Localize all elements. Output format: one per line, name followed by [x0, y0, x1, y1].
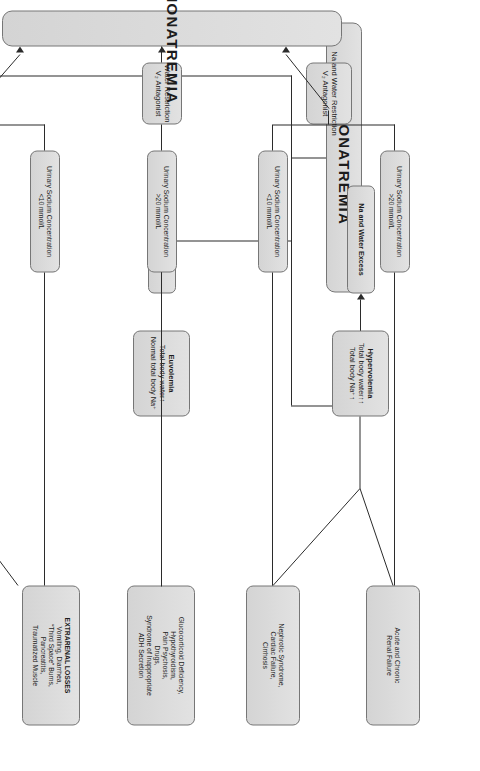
hypervolemic-nonrenal-item-2: Cirrhosis: [261, 642, 269, 669]
extrarenal-losses-item-3: Traumatized Muscle: [31, 625, 39, 686]
volume-state-hypervolemia: Hypervolemia Total body water↑↑ Total bo…: [332, 330, 389, 416]
hypervolemic-renal-item-1: Renal Failure: [385, 635, 393, 675]
connector-euvolemic-causes-to-lab: [161, 272, 162, 585]
connector-nawr-to-normonatremia: [280, 46, 340, 112]
euvolemic-cause-item-1: Hypothyroidism,: [169, 631, 177, 680]
euvolemic-cause-item-4: Syndrome of Inappropriate: [145, 615, 153, 695]
lab-urinary-sodium-gt20-hypervolemia-renalfailure: Urinary Sodium Concentration>20 mmol/L: [380, 150, 410, 272]
connector-hyperv-renal-to-lab: [394, 272, 395, 585]
lab-urinary-sodium-lt10-hypovolemia-extrarenal: Urinary Sodium Concentration<10 mmol/L: [30, 150, 60, 272]
causes-hypervolemic-renal-failure: Acute and Chronic Renal Failure: [366, 585, 420, 725]
causes-euvolemic: Glucocorticoid Deficiency, Hypothyroidis…: [127, 585, 195, 725]
connector-hypovolemia-split: [0, 414, 40, 594]
euvolemia-line2: Normal total body Na⁺: [148, 336, 157, 409]
extrarenal-losses-item-2: Pancreatitis,: [39, 636, 47, 673]
extrarenal-losses-item-0: Vomiting, Diarrhea,: [55, 626, 63, 684]
lab-lt10-b-line1: Urinary Sodium Concentration: [45, 165, 53, 256]
arrowhead-normonatremia-from-nawr: [282, 46, 290, 52]
stage-na-and-water-excess: Na and Water Excess: [347, 185, 375, 293]
euvolemic-cause-item-3: Drugs,: [153, 645, 161, 665]
connector-lab-lt10a-to-nawr: [272, 124, 273, 150]
euvolemic-cause-item-0: Glucocorticoid Deficiency,: [177, 616, 185, 694]
connector-saline-to-normonatremia: [0, 46, 80, 112]
causes-extrarenal-losses: EXTRARENAL LOSSES Vomiting, Diarrhea, “T…: [22, 585, 80, 725]
extrarenal-losses-header: EXTRARENAL LOSSES: [63, 617, 71, 693]
lab-lt10-a-line2: <10 mmol/L: [265, 193, 273, 229]
connector-saline-bus: [0, 124, 45, 125]
connector-nawr-bus: [273, 124, 395, 125]
lab-lt10-b-line2: <10 mmol/L: [37, 193, 45, 229]
connector-hypervolemia-split: [290, 414, 420, 594]
connector-hyperv-nonrenal-to-lab: [272, 272, 273, 585]
hypervolemic-nonrenal-item-1: Cardiac Failure,: [269, 631, 277, 679]
lab-urinary-sodium-lt10-hypervolemia-nonrenal: Urinary Sodium Concentration<10 mmol/L: [258, 150, 288, 272]
treatment-water-restriction-line2: V₂ Antagonist: [153, 70, 162, 116]
euvolemic-cause-item-5: ADH Secretion: [137, 633, 145, 678]
outcome-normonatremia: NORMONATREMIA: [2, 10, 342, 46]
lab-gt20-b-line2: >20 mmol/L: [154, 193, 162, 229]
connector-lab-gt20b-to-wr: [161, 124, 162, 150]
euvolemia-name: Euvolemia: [166, 354, 175, 392]
euvolemic-cause-item-2: Pain Psychosis,: [161, 631, 169, 679]
hypervolemic-renal-item-0: Acute and Chronic: [393, 627, 401, 683]
hypervolemia-line2: Total body Na⁺↑: [347, 347, 356, 400]
connector-title-trunk: [292, 157, 326, 158]
stage-na-and-water-excess-label: Na and Water Excess: [357, 203, 365, 275]
hypervolemia-line1: Total body water↑↑: [356, 342, 365, 403]
extrarenal-losses-item-1: “Third Space” Burns,: [47, 624, 55, 687]
lab-gt20-b-line1: Urinary Sodium Concentration: [162, 165, 170, 256]
connector-extrarenal-losses-to-lab: [44, 272, 45, 585]
arrowhead-normonatremia-from-wr: [158, 46, 166, 52]
lab-lt10-a-line1: Urinary Sodium Concentration: [273, 165, 281, 256]
lab-gt20-a-line1b: Urinary Sodium Concentration: [395, 165, 403, 256]
flowchart-canvas: HYPONATREMIA Na and Water Deficit Water …: [0, 0, 480, 771]
connector-lab-gt20a-to-nawr: [394, 124, 395, 150]
connector-lab-lt10b-to-saline: [44, 124, 45, 150]
arrowhead-naexcess: [357, 293, 365, 299]
hypervolemia-name: Hypervolemia: [365, 348, 374, 398]
lab-urinary-sodium-gt20-euvolemia: Urinary Sodium Concentration>20 mmol/L: [147, 150, 177, 272]
lab-gt20-a-line2b: >20 mmol/L: [387, 193, 395, 229]
hypervolemic-nonrenal-item-0: Nephrotic Syndrome,: [277, 623, 285, 687]
causes-hypervolemic-nonrenal: Nephrotic Syndrome, Cardiac Failure, Cir…: [246, 585, 300, 725]
arrowhead-normonatremia-from-saline: [16, 46, 24, 52]
